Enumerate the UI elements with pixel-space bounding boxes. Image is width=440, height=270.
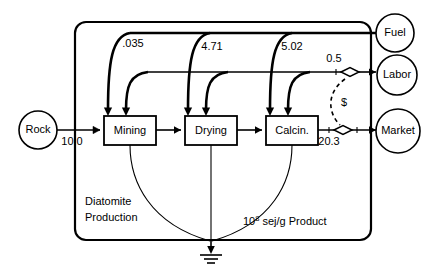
heat-loss-mining: [130, 145, 210, 241]
process-mining-label: Mining: [114, 124, 146, 136]
label-fuel-calcin: 5.02: [281, 40, 302, 52]
transaction-diamond-market[interactable]: [334, 126, 352, 135]
flow-labor-mining-arrowhead: [122, 108, 130, 117]
source-market-label: Market: [381, 124, 415, 136]
process-calcin-label: Calcin.: [275, 124, 309, 136]
flow-rock-arrowhead: [93, 126, 100, 133]
process-drying-label: Drying: [195, 124, 227, 136]
label-labor-flow: 0.5: [326, 52, 341, 64]
heat-sink-arrowhead: [207, 246, 215, 254]
flow-labor-to-calcin: [288, 72, 310, 110]
transaction-diamond-labor[interactable]: [341, 68, 359, 77]
flow-product-arrowhead: [369, 126, 376, 133]
source-labor-label: Labor: [383, 68, 411, 80]
label-rock-flow: 10.0: [61, 135, 82, 147]
unit-note-suffix: sej/g Product: [259, 215, 326, 227]
flow-mining-drying-arrowhead: [174, 126, 181, 133]
label-fuel-drying: 4.71: [201, 40, 222, 52]
diagram-canvas: Rock 10.0 Fuel Labor Market: [0, 0, 440, 270]
flow-fuel-calcin-arrowhead: [266, 108, 274, 117]
flow-labor-calcin-arrowhead: [284, 108, 292, 117]
caption-line-2: Production: [85, 211, 138, 223]
flow-fuel-mining-arrowhead: [104, 108, 112, 117]
transaction-labor-arrowhead: [369, 69, 376, 76]
source-rock-label: Rock: [25, 123, 51, 135]
flow-fuel-drying-arrowhead: [184, 108, 192, 117]
energy-systems-diagram: Rock 10.0 Fuel Labor Market: [0, 0, 440, 270]
label-fuel-mining: .035: [122, 37, 143, 49]
flow-labor-to-drying: [206, 72, 228, 110]
flow-labor-drying-arrowhead: [202, 108, 210, 117]
unit-note: 108 sej/g Product: [243, 214, 327, 227]
flow-labor-to-mining: [126, 72, 148, 110]
source-fuel-label: Fuel: [384, 26, 405, 38]
flow-drying-calcin-arrowhead: [255, 126, 262, 133]
label-product-flow: 20.3: [318, 135, 339, 147]
caption-line-1: Diatomite: [85, 195, 131, 207]
unit-note-base: 10: [243, 215, 255, 227]
money-symbol-label: $: [341, 96, 347, 108]
